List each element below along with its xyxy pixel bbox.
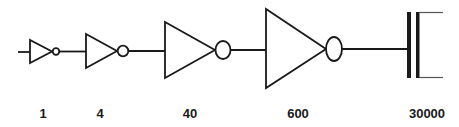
- inverter-1-icon: [30, 40, 59, 63]
- size-label-inv3: 40: [183, 106, 197, 121]
- capacitor-icon: [407, 12, 443, 78]
- inverter-4-icon: [266, 9, 342, 88]
- size-label-inv2: 4: [96, 106, 103, 121]
- size-label-load: 30000: [409, 106, 445, 121]
- inverter-2-icon: [86, 34, 128, 68]
- size-label-inv4: 600: [287, 106, 309, 121]
- inverter-chain-diagram: 1 4 40 600 30000: [0, 0, 459, 127]
- size-label-inv1: 1: [39, 106, 46, 121]
- inverter-3-icon: [165, 22, 231, 78]
- diagram-graphic: [0, 0, 459, 127]
